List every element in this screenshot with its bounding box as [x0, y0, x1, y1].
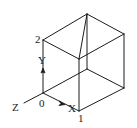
edge-p2-front-top [43, 40, 79, 59]
edge-top-front-top [79, 14, 87, 59]
axis-arrows [41, 68, 65, 106]
edge-inner-bottom-right [87, 69, 124, 88]
edge-origin-inner [43, 69, 87, 93]
axis-x-label: X [68, 102, 76, 114]
edge-front-bottom-bottom-right [79, 88, 124, 111]
point-0-label: 0 [39, 97, 45, 109]
axis-z-label: Z [12, 101, 19, 113]
point-2-label: 2 [35, 33, 41, 45]
axis-y-label: Y [38, 54, 46, 66]
edge-p2-top [43, 14, 87, 40]
edge-top-top-right [87, 14, 124, 34]
cube-diagram: 2 Y 0 Z X 1 [0, 0, 137, 128]
point-1-label: 1 [78, 112, 84, 124]
edge-front-top-top-right [79, 34, 124, 59]
diagram-svg: 2 Y 0 Z X 1 [0, 0, 137, 128]
y-axis-arrow-icon [41, 68, 45, 73]
